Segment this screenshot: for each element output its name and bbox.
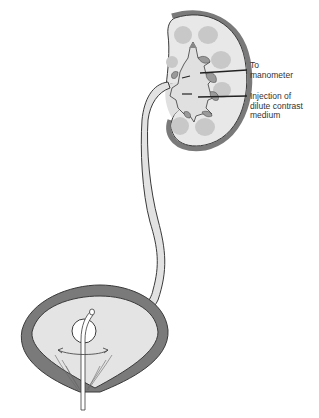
ureter <box>141 82 170 312</box>
bladder <box>21 285 168 410</box>
label-to-manometer: To manometer <box>250 61 293 80</box>
injection-pointer-line <box>198 96 247 97</box>
kidney <box>165 13 249 149</box>
diagram-canvas: To manometer Injection of dilute contras… <box>0 0 319 418</box>
label-injection-contrast: Injection of dilute contrast medium <box>250 92 303 121</box>
